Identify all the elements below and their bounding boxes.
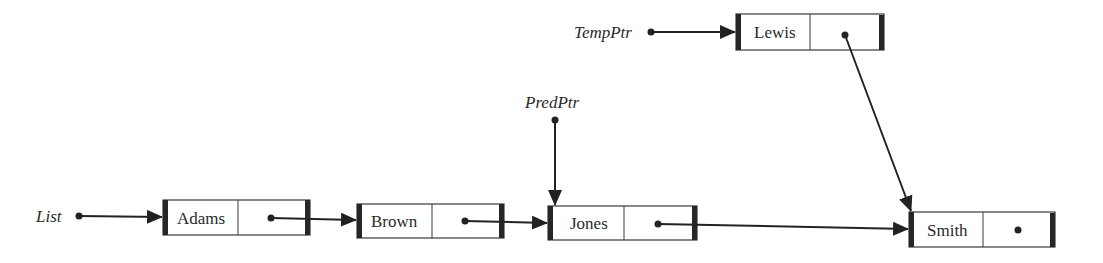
node-adams-value: Adams (177, 209, 225, 228)
linked-list-diagram: List Adams Brown PredPtr Jones (0, 0, 1103, 263)
pred-label: PredPtr (524, 93, 580, 112)
node-smith-value: Smith (927, 221, 968, 240)
temp-label: TempPtr (574, 23, 632, 42)
pred-pointer: PredPtr (524, 93, 580, 205)
list-to-adams-arrow (79, 216, 162, 217)
node-brown: Brown (357, 204, 547, 238)
node-lewis-value: Lewis (754, 23, 796, 42)
list-pointer: List (35, 207, 162, 226)
node-brown-value: Brown (371, 212, 418, 231)
lewis-to-smith-arrow (845, 35, 911, 211)
node-jones: Jones (548, 206, 908, 240)
node-smith-null-dot (1015, 227, 1022, 234)
list-label: List (35, 207, 63, 226)
node-jones-value: Jones (570, 214, 608, 233)
node-lewis: Lewis (736, 14, 911, 211)
node-smith: Smith (909, 212, 1055, 247)
node-adams: Adams (163, 200, 356, 235)
temp-pointer: TempPtr (574, 23, 735, 42)
